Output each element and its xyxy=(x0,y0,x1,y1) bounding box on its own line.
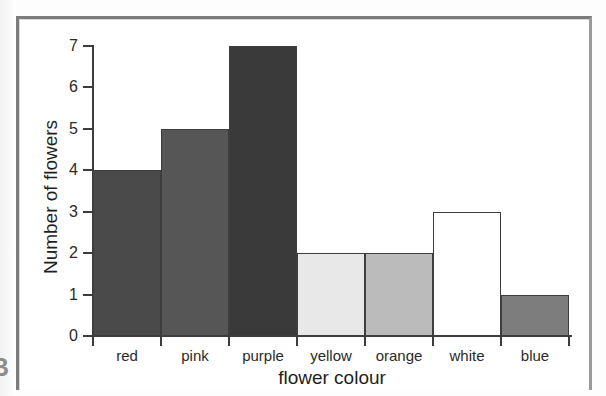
page-background: B 01234567 redpinkpurpleyelloworangewhit… xyxy=(0,0,606,396)
figure-side-marker: B xyxy=(0,352,13,382)
figure-frame xyxy=(16,16,592,390)
scan-edge-shading xyxy=(0,0,16,396)
